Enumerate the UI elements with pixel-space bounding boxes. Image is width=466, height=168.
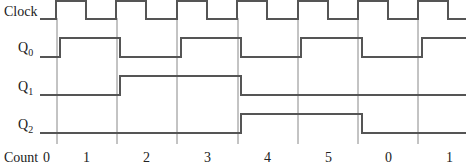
clock-edge-gridlines xyxy=(57,18,418,144)
count-value: 2 xyxy=(143,150,150,165)
q2-label: Q2 xyxy=(18,117,33,135)
count-label: Count xyxy=(4,150,38,165)
q1-label: Q1 xyxy=(18,79,33,97)
timing-diagram: Clock Q0 Q1 Q2 Count 0 1 2 3 4 5 0 1 xyxy=(0,0,466,168)
count-value: 1 xyxy=(83,150,90,165)
q2-waveform xyxy=(40,114,466,133)
count-value: 0 xyxy=(43,150,50,165)
count-value: 3 xyxy=(204,150,211,165)
q1-waveform xyxy=(40,76,466,95)
q0-label: Q0 xyxy=(18,40,33,58)
clock-label: Clock xyxy=(4,4,37,19)
count-value: 4 xyxy=(264,150,271,165)
count-value: 1 xyxy=(446,150,453,165)
count-value: 5 xyxy=(325,150,332,165)
q0-waveform xyxy=(40,38,466,57)
count-value: 0 xyxy=(385,150,392,165)
clock-waveform xyxy=(40,1,466,19)
